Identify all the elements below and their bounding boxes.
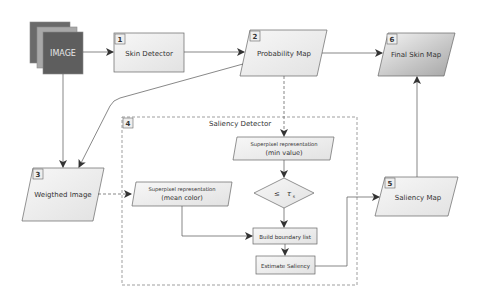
arrow-probability-to-weighted xyxy=(79,64,243,167)
superpixel-min-node: Superpixel representation (min value) xyxy=(233,137,334,160)
superpixel-min-line1: Superpixel representation xyxy=(250,141,317,148)
threshold-op: ≤ xyxy=(274,190,280,198)
probability-map-label: Probability Map xyxy=(257,50,312,58)
build-boundary-label: Build boundary list xyxy=(259,234,311,241)
threshold-symbol: τ xyxy=(287,189,292,198)
estimate-saliency-node: Estimate Saliency xyxy=(256,256,315,274)
badge-6: 6 xyxy=(390,36,395,44)
probability-map-node: 2 Probability Map xyxy=(240,30,327,76)
saliency-detector-label: Saliency Detector xyxy=(209,120,271,128)
build-boundary-node: Build boundary list xyxy=(253,228,317,244)
flow-diagram: IMAGE 1 Skin Detector 2 Probability Map … xyxy=(0,0,482,302)
superpixel-min-line2: (min value) xyxy=(265,149,302,157)
arrow-superpixel-mean-to-boundary xyxy=(182,206,252,236)
final-skin-map-label: Final Skin Map xyxy=(391,51,442,59)
saliency-map-label: Saliency Map xyxy=(395,194,442,202)
final-skin-map-node: 6 Final Skin Map xyxy=(378,33,455,76)
weighted-image-node: 3 Weigthed Image xyxy=(22,168,104,221)
badge-3: 3 xyxy=(36,171,41,179)
superpixel-mean-node: Superpixel representation (mean color) xyxy=(132,182,232,206)
superpixel-mean-line2: (mean color) xyxy=(161,194,203,202)
superpixel-mean-line1: Superpixel representation xyxy=(148,186,215,193)
badge-1: 1 xyxy=(118,36,123,44)
image-label: IMAGE xyxy=(50,49,76,58)
badge-5: 5 xyxy=(388,180,393,188)
badge-4: 4 xyxy=(126,120,131,128)
badge-2: 2 xyxy=(253,33,258,41)
saliency-map-node: 5 Saliency Map xyxy=(375,177,458,216)
weighted-image-label: Weigthed Image xyxy=(34,191,91,199)
image-stack-icon: IMAGE xyxy=(30,22,83,74)
skin-detector-node: 1 Skin Detector xyxy=(114,33,184,72)
estimate-saliency-label: Estimate Saliency xyxy=(261,263,311,270)
skin-detector-label: Skin Detector xyxy=(125,50,173,58)
threshold-decision-node: ≤ τ s xyxy=(254,178,314,208)
arrow-estimate-to-saliency-map xyxy=(315,197,379,266)
